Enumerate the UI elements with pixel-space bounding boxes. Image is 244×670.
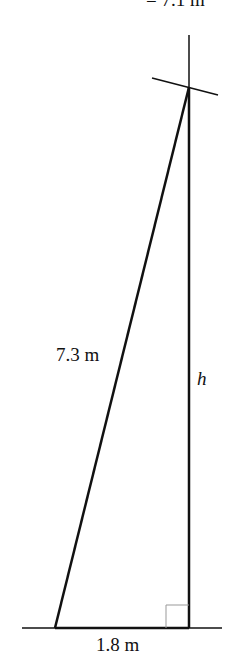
- base-label: 1.8 m: [96, 634, 139, 656]
- height-label: h: [197, 368, 207, 390]
- arc-mark: [152, 78, 218, 95]
- top-label: = 7.1 m: [146, 0, 205, 11]
- ladder-diagram: [0, 0, 244, 670]
- hypotenuse-label: 7.3 m: [56, 344, 99, 366]
- right-angle-marker: [166, 605, 189, 628]
